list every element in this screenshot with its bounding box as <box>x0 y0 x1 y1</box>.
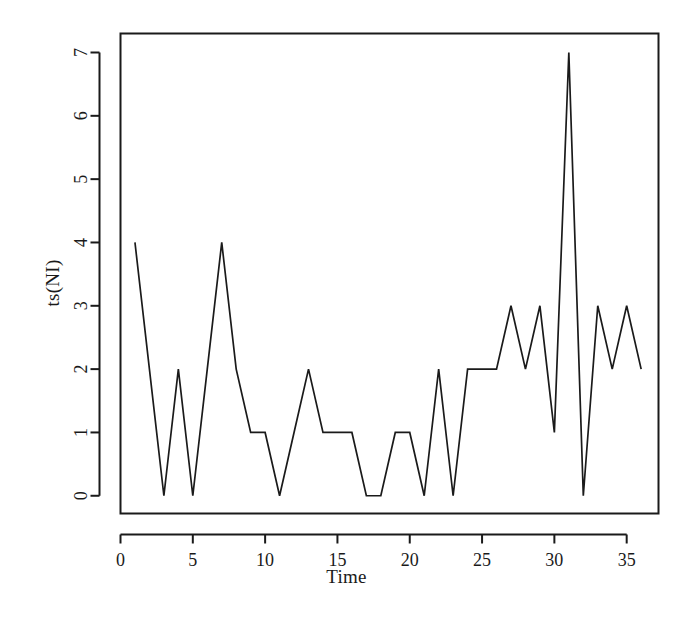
x-axis: 05101520253035 <box>116 535 636 570</box>
y-tick-label: 7 <box>72 48 92 57</box>
y-tick-label: 4 <box>72 238 92 247</box>
plot-frame <box>121 34 659 514</box>
y-tick-label: 3 <box>72 301 92 310</box>
time-series-figure: 05101520253035 01234567 ts(NI) Time <box>0 0 693 617</box>
y-tick-label: 1 <box>72 428 92 437</box>
x-axis-title: Time <box>0 566 693 588</box>
y-axis: 01234567 <box>72 48 100 500</box>
plot-area: 05101520253035 01234567 <box>0 0 693 617</box>
series-line <box>135 53 641 496</box>
y-tick-label: 0 <box>72 491 92 500</box>
data-series-line <box>135 53 641 496</box>
y-tick-label: 5 <box>72 175 92 184</box>
y-tick-label: 6 <box>72 111 92 120</box>
y-tick-label: 2 <box>72 365 92 374</box>
y-axis-title: ts(NI) <box>42 223 64 343</box>
